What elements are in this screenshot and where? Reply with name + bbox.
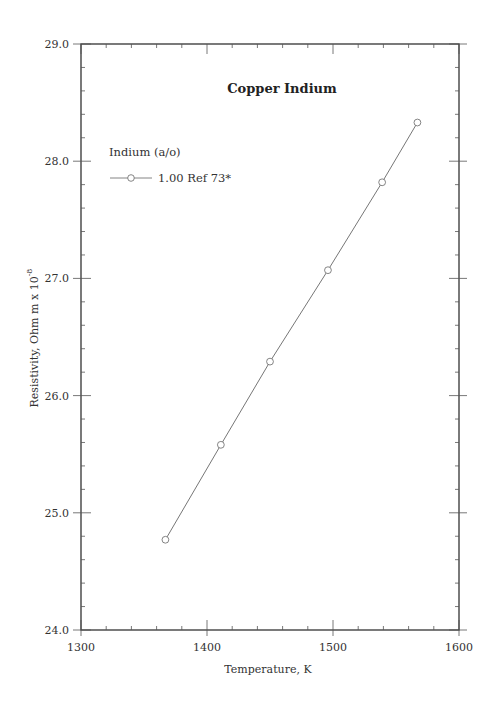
legend-title: Indium (a/o)	[109, 145, 181, 159]
tick-labels: 130014001500160024.025.026.027.028.029.0	[45, 38, 474, 654]
x-axis-label: Temperature, K	[224, 663, 312, 676]
y-axis-label-exponent: -8	[25, 269, 34, 277]
chart-title: Copper Indium	[227, 81, 337, 96]
data-point-circle-icon	[162, 536, 169, 543]
plot-border	[81, 44, 459, 630]
legend: Indium (a/o) 1.00 Ref 73*	[109, 145, 231, 185]
data-point-circle-icon	[325, 267, 332, 274]
data-point-circle-icon	[267, 358, 274, 365]
y-tick-label: 24.0	[45, 624, 70, 637]
y-tick-label: 28.0	[45, 155, 70, 168]
y-tick-label: 26.0	[45, 390, 70, 403]
x-tick-label: 1300	[67, 641, 95, 654]
y-axis-label: Resistivity, Ohm m x 10-8	[25, 269, 41, 408]
y-tick-label: 25.0	[45, 507, 70, 520]
y-tick-label: 29.0	[45, 38, 70, 51]
data-point-circle-icon	[414, 119, 421, 126]
y-axis-label-text: Resistivity, Ohm m x 10	[28, 276, 41, 407]
data-point-circle-icon	[217, 441, 224, 448]
plot-frame	[81, 44, 459, 630]
x-tick-label: 1500	[319, 641, 347, 654]
legend-marker-circle-icon	[128, 175, 135, 182]
data-point-circle-icon	[379, 179, 386, 186]
chart: 130014001500160024.025.026.027.028.029.0…	[0, 0, 480, 707]
x-tick-label: 1600	[445, 641, 473, 654]
svg-text:Resistivity, Ohm m x 10-8: Resistivity, Ohm m x 10-8	[25, 269, 41, 408]
axis-ticks	[73, 44, 467, 636]
y-tick-label: 27.0	[45, 272, 70, 285]
legend-entry-label: 1.00 Ref 73*	[158, 171, 231, 185]
x-tick-label: 1400	[193, 641, 221, 654]
